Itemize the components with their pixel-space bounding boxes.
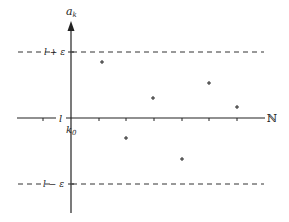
limit-label: l <box>59 113 62 124</box>
data-point <box>151 96 155 100</box>
upper-band-label: l + ε <box>44 47 65 57</box>
data-point <box>180 157 184 161</box>
x-axis-label: ℕ <box>267 112 277 125</box>
data-point <box>100 60 104 64</box>
origin-label: k0 <box>66 124 77 137</box>
data-point <box>235 105 239 109</box>
data-point <box>207 81 211 85</box>
sequence-points <box>100 60 239 161</box>
y-axis-label: ak <box>66 5 77 19</box>
y-axis-arrow-icon <box>68 21 75 31</box>
data-point <box>124 136 128 140</box>
lower-band-label: l − ε <box>43 179 64 189</box>
epsilon-band-diagram: ak ℕ k0 l l + ε l − ε <box>0 0 289 222</box>
